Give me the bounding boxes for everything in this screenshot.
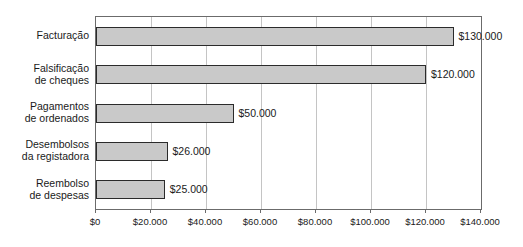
value-axis-labels: $0$20.000$40.000$60.000$80.000$100.000$1… (0, 216, 523, 232)
tick-mark-7 (480, 209, 481, 213)
bar-value-label: $120.000 (431, 68, 475, 81)
bar-row: $120.000 (96, 65, 481, 84)
value-axis-tick-label: $80.000 (298, 216, 332, 228)
tick-mark-1 (150, 209, 151, 213)
value-axis-tick-label: $20.000 (133, 216, 167, 228)
bar[interactable] (96, 180, 165, 199)
bar-value-label: $50.000 (239, 107, 277, 120)
plot-area: $130.000$120.000$50.000$26.000$25.000 (95, 16, 482, 210)
bar-row: $25.000 (96, 180, 481, 199)
bar[interactable] (96, 104, 234, 123)
tick-mark-0 (95, 209, 96, 213)
value-axis-tick-label: $100.000 (350, 216, 390, 228)
bar-row: $50.000 (96, 104, 481, 123)
value-axis-tick-marks (95, 209, 482, 214)
category-axis: FacturaçãoFalsificação de chequesPagamen… (0, 16, 89, 208)
bar-value-label: $26.000 (173, 145, 211, 158)
tick-mark-2 (205, 209, 206, 213)
tick-mark-4 (315, 209, 316, 213)
bars-layer: $130.000$120.000$50.000$26.000$25.000 (96, 17, 481, 209)
bar[interactable] (96, 27, 454, 46)
category-label: Facturação (0, 29, 89, 41)
category-label: Pagamentos de ordenados (0, 100, 89, 124)
value-axis-tick-label: $40.000 (188, 216, 222, 228)
tick-mark-3 (260, 209, 261, 213)
bar-row: $130.000 (96, 27, 481, 46)
category-label: Reembolso de despesas (0, 177, 89, 201)
gridline-7 (481, 17, 482, 209)
value-axis-tick-label: $60.000 (243, 216, 277, 228)
bar-value-label: $25.000 (170, 183, 208, 196)
tick-mark-6 (425, 209, 426, 213)
value-axis-tick-label: $120.000 (405, 216, 445, 228)
bar[interactable] (96, 142, 168, 161)
category-label: Falsificação de cheques (0, 62, 89, 86)
tick-mark-5 (370, 209, 371, 213)
bar-value-label: $130.000 (459, 30, 503, 43)
bar-row: $26.000 (96, 142, 481, 161)
category-label: Desembolsos da registadora (0, 138, 89, 162)
horizontal-bar-chart: FacturaçãoFalsificação de chequesPagamen… (0, 0, 523, 247)
bar[interactable] (96, 65, 426, 84)
value-axis-tick-label: $140.000 (460, 216, 500, 228)
value-axis-tick-label: $0 (90, 216, 101, 228)
